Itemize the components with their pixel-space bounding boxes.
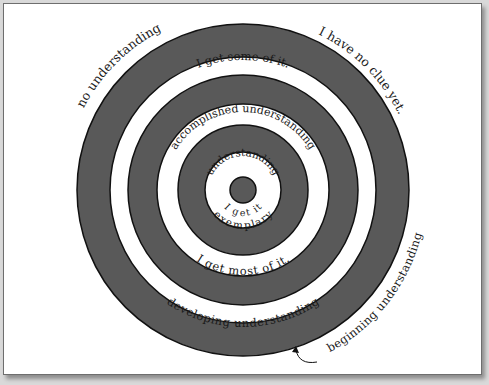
- target-diagram: no understanding I have no clue yet. I g…: [0, 0, 489, 385]
- bullseye: [230, 177, 256, 203]
- rings: [77, 24, 409, 356]
- pointer-arrow-icon: [292, 346, 317, 363]
